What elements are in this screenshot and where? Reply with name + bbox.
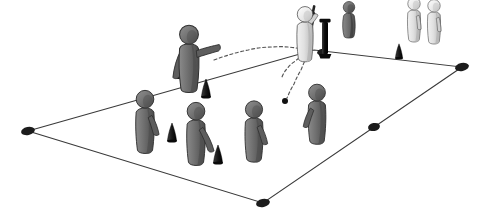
drill-diagram-canvas — [0, 0, 491, 218]
scene-svg — [0, 0, 491, 218]
arm-right — [196, 45, 220, 58]
ball — [282, 98, 288, 104]
cone-cone-fielder2 — [213, 145, 223, 165]
player-waiting-batter-2 — [427, 0, 441, 44]
cone-cone-sideline — [395, 44, 403, 60]
players-layer — [133, 0, 441, 170]
ball-layer — [282, 98, 288, 104]
player-fielder-3 — [243, 101, 268, 166]
player-waiting-batter-1 — [407, 0, 421, 42]
trajectory-hit-path-down — [287, 57, 307, 98]
trajectory-throw-path — [214, 47, 306, 60]
player-thrower — [173, 25, 220, 97]
corner-marker — [20, 126, 35, 137]
player-fielder-2 — [184, 102, 214, 169]
cone-cone-fielder1 — [167, 123, 177, 143]
player-fielder-4 — [303, 84, 328, 148]
ball-trajectories — [214, 47, 307, 98]
player-wicket-keeper — [343, 1, 356, 38]
player-batter — [297, 7, 318, 63]
player-fielder-1 — [133, 90, 159, 157]
